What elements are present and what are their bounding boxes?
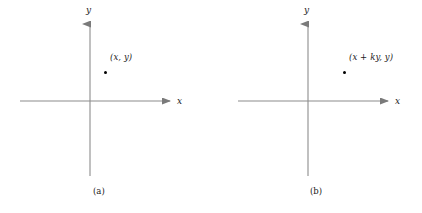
y-axis-label-b: y (304, 6, 309, 15)
figure-container: y x (x, y) (a) y x (0, 0, 422, 213)
y-axis-label-a: y (86, 6, 91, 15)
x-axis-label-a: x (177, 97, 182, 106)
axes-diagram-a (0, 0, 211, 213)
caption-b: (b) (310, 187, 322, 196)
point-label-a: (x, y) (110, 53, 132, 62)
point-label-b: (x + ky, y) (349, 53, 393, 62)
panel-a: y x (x, y) (a) (0, 0, 211, 213)
panel-b: y x (x + ky, y) (b) (211, 0, 422, 213)
x-axis-label-b: x (395, 97, 400, 106)
caption-a: (a) (93, 187, 105, 196)
data-point-b (343, 71, 346, 74)
axes-diagram-b (211, 0, 422, 213)
data-point-a (104, 71, 107, 74)
